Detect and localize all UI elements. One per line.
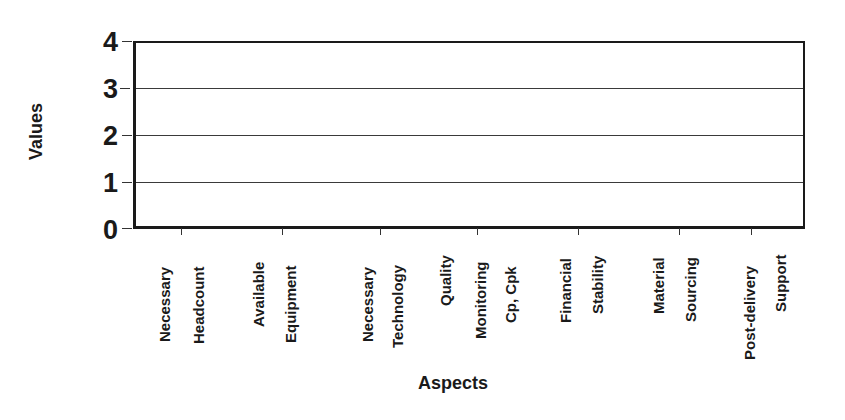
y-tick-mark xyxy=(120,88,130,89)
y-tick-label: 0 xyxy=(88,215,118,246)
x-category-label: Necessary xyxy=(156,267,173,342)
y-tick-mark xyxy=(122,228,132,229)
y-tick-mark xyxy=(122,135,132,136)
x-category-label: Sourcing xyxy=(682,257,699,322)
x-category-label: Financial xyxy=(557,258,574,323)
x-category-label: Quality xyxy=(437,255,454,306)
gridline xyxy=(136,88,803,89)
x-tick-mark xyxy=(181,228,182,235)
x-category-label: Technology xyxy=(389,265,406,348)
x-category-label: Material xyxy=(650,257,667,314)
y-tick-mark xyxy=(122,182,132,183)
y-axis-title: Values xyxy=(26,103,47,160)
x-tick-mark xyxy=(477,228,478,235)
x-category-label: Available xyxy=(250,262,267,327)
plot-area xyxy=(133,41,805,229)
y-tick-label: 1 xyxy=(88,168,118,199)
x-tick-mark xyxy=(578,228,579,235)
y-tick-label: 4 xyxy=(88,27,118,58)
y-tick-label: 2 xyxy=(88,121,118,152)
x-category-label: Monitoring xyxy=(472,262,489,339)
x-category-label: Support xyxy=(772,255,789,313)
x-tick-mark xyxy=(751,228,752,235)
gridline xyxy=(136,182,803,183)
x-category-label: Equipment xyxy=(282,266,299,344)
x-tick-mark xyxy=(282,228,283,235)
x-tick-mark xyxy=(679,228,680,235)
x-tick-mark xyxy=(380,228,381,235)
gridline xyxy=(136,135,803,136)
x-axis-title: Aspects xyxy=(418,373,488,394)
y-tick-label: 3 xyxy=(88,74,118,105)
x-category-label: Post-delivery xyxy=(741,266,758,360)
x-category-label: Cp, Cpk xyxy=(502,266,519,323)
x-category-label: Necessary xyxy=(359,267,376,342)
y-tick-mark xyxy=(122,41,132,42)
x-category-label: Headcount xyxy=(190,266,207,344)
x-category-label: Stability xyxy=(589,256,606,314)
